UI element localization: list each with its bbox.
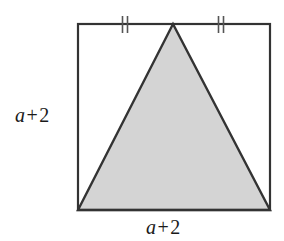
bottom-label-constant: 2 xyxy=(170,216,181,238)
left-label-operator: + xyxy=(26,104,40,126)
left-label-constant: 2 xyxy=(39,104,50,126)
left-label-variable: a xyxy=(15,104,26,126)
geometry-figure: a+2 a+2 xyxy=(0,0,284,241)
bottom-side-label: a+2 xyxy=(146,217,181,237)
bottom-label-variable: a xyxy=(146,216,157,238)
shaded-triangle xyxy=(78,24,270,210)
left-side-label: a+2 xyxy=(15,105,50,125)
bottom-label-operator: + xyxy=(157,216,171,238)
